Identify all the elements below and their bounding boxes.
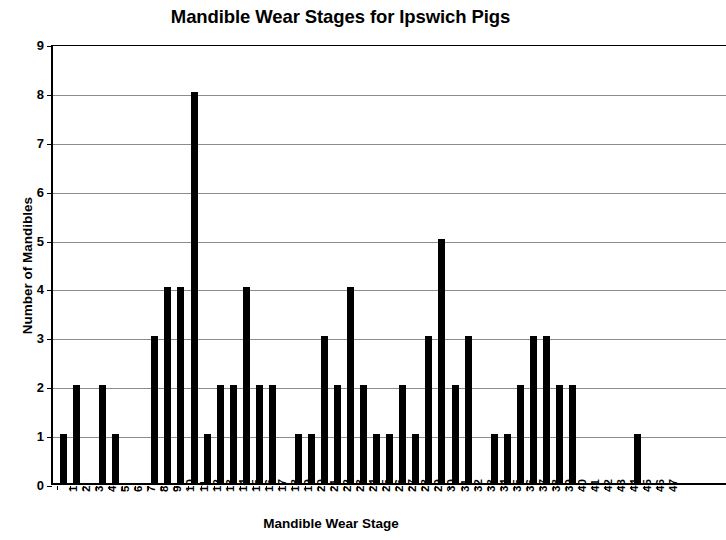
- bar: [543, 336, 550, 483]
- bar: [112, 434, 119, 483]
- gridline: [53, 290, 726, 291]
- x-axis-tick-mark: [566, 486, 567, 490]
- bar: [634, 434, 641, 483]
- x-axis-tick-mark: [227, 486, 228, 490]
- x-axis-title: Mandible Wear Stage: [51, 516, 611, 531]
- y-axis-tick-label: 2: [8, 381, 44, 394]
- x-axis-tick-mark: [214, 486, 215, 490]
- y-axis-tick-mark: [47, 242, 52, 243]
- x-axis-tick-mark: [83, 486, 84, 490]
- y-axis-tick-label: 9: [8, 39, 44, 52]
- x-axis-tick-mark: [435, 486, 436, 490]
- y-axis-tick-label: 0: [8, 479, 44, 492]
- bar: [217, 385, 224, 483]
- x-axis-tick-mark: [318, 486, 319, 490]
- plot-area: 0123456789 12345678910111213141516171819…: [51, 45, 726, 485]
- x-axis-tick-mark: [540, 486, 541, 490]
- gridline: [53, 95, 726, 96]
- x-axis-tick-mark: [527, 486, 528, 490]
- x-axis-tick-mark: [644, 486, 645, 490]
- gridline: [53, 242, 726, 243]
- gridline: [53, 144, 726, 145]
- bar: [177, 287, 184, 483]
- bar: [504, 434, 511, 483]
- bar: [256, 385, 263, 483]
- x-axis-tick-mark: [422, 486, 423, 490]
- chart-title: Mandible Wear Stages for Ipswich Pigs: [0, 6, 681, 28]
- y-axis-tick-mark: [47, 193, 52, 194]
- y-axis-tick-label: 6: [8, 186, 44, 199]
- x-axis-tick-mark: [370, 486, 371, 490]
- y-axis-tick-mark: [47, 95, 52, 96]
- y-axis-tick-label: 4: [8, 283, 44, 296]
- x-axis-tick-mark: [344, 486, 345, 490]
- x-axis-tick-mark: [331, 486, 332, 490]
- x-axis-tick-mark: [135, 486, 136, 490]
- x-axis-tick-mark: [201, 486, 202, 490]
- y-axis-tick-label: 3: [8, 332, 44, 345]
- x-axis-tick-mark: [70, 486, 71, 490]
- x-axis-tick-mark: [449, 486, 450, 490]
- x-axis-tick-mark: [475, 486, 476, 490]
- bar: [569, 385, 576, 483]
- x-axis-tick-label: 47: [668, 479, 680, 492]
- bar: [295, 434, 302, 483]
- bar: [308, 434, 315, 483]
- bar: [556, 385, 563, 483]
- x-axis-tick-mark: [57, 486, 58, 490]
- bar: [99, 385, 106, 483]
- bar: [491, 434, 498, 483]
- y-axis-tick-mark: [47, 290, 52, 291]
- x-axis-tick-mark: [292, 486, 293, 490]
- bar: [517, 385, 524, 483]
- x-axis-tick-mark: [383, 486, 384, 490]
- x-axis-tick-mark: [514, 486, 515, 490]
- bar: [321, 336, 328, 483]
- x-axis-tick-mark: [122, 486, 123, 490]
- x-axis-tick-mark: [553, 486, 554, 490]
- x-axis-tick-mark: [409, 486, 410, 490]
- bar: [425, 336, 432, 483]
- x-axis-tick-mark: [148, 486, 149, 490]
- bar: [399, 385, 406, 483]
- bar: [412, 434, 419, 483]
- y-axis-tick-mark: [47, 144, 52, 145]
- x-axis-tick-mark: [109, 486, 110, 490]
- bar: [530, 336, 537, 483]
- bar: [452, 385, 459, 483]
- gridline: [53, 193, 726, 194]
- x-axis-tick-mark: [396, 486, 397, 490]
- x-axis-tick-mark: [501, 486, 502, 490]
- x-axis-tick-mark: [253, 486, 254, 490]
- bar: [230, 385, 237, 483]
- x-axis-tick-mark: [161, 486, 162, 490]
- x-axis-tick-mark: [579, 486, 580, 490]
- y-axis-tick-mark: [47, 339, 52, 340]
- x-axis-tick-mark: [279, 486, 280, 490]
- x-axis-tick-mark: [266, 486, 267, 490]
- x-axis-tick-mark: [462, 486, 463, 490]
- y-axis-tick-label: 5: [8, 235, 44, 248]
- y-axis-tick-label: 7: [8, 137, 44, 150]
- y-axis-tick-mark: [47, 388, 52, 389]
- bar: [243, 287, 250, 483]
- bar: [465, 336, 472, 483]
- x-axis-tick-mark: [618, 486, 619, 490]
- bar: [164, 287, 171, 483]
- y-axis-tick-mark: [47, 46, 52, 47]
- bar: [151, 336, 158, 483]
- bar: [373, 434, 380, 483]
- x-axis-tick-mark: [592, 486, 593, 490]
- x-axis-tick-mark: [96, 486, 97, 490]
- bar: [438, 239, 445, 483]
- bar: [191, 92, 198, 483]
- bar: [269, 385, 276, 483]
- x-axis-tick-mark: [174, 486, 175, 490]
- x-axis-tick-mark: [657, 486, 658, 490]
- x-axis-tick-mark: [488, 486, 489, 490]
- bar: [334, 385, 341, 483]
- y-axis-tick-label: 8: [8, 88, 44, 101]
- x-axis-tick-mark: [305, 486, 306, 490]
- bar: [60, 434, 67, 483]
